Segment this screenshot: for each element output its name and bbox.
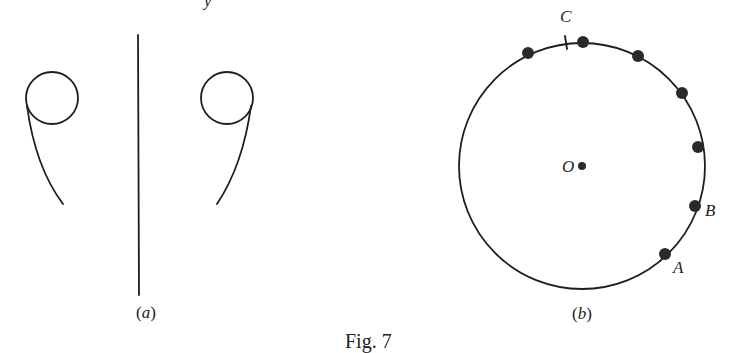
left-loop-circle bbox=[26, 72, 78, 124]
orbit-point bbox=[689, 200, 701, 212]
right-loop-circle bbox=[201, 72, 253, 124]
tick-mark-c bbox=[565, 36, 567, 49]
figure-caption: Fig. 7 bbox=[345, 330, 392, 353]
label-b: B bbox=[705, 201, 716, 220]
figure-7: y (a) O C B A (b) Fig. 7 bbox=[0, 0, 738, 353]
left-loop-tail bbox=[27, 106, 63, 204]
orbit-point bbox=[676, 87, 688, 99]
cropped-text-fragment: y bbox=[202, 0, 212, 10]
vertical-line bbox=[138, 35, 139, 295]
orbit-point bbox=[692, 141, 704, 153]
panel-a-label: (a) bbox=[136, 303, 156, 322]
right-loop-tail bbox=[217, 106, 251, 204]
panel-a: (a) bbox=[26, 35, 253, 322]
label-c: C bbox=[560, 7, 572, 26]
center-point-o bbox=[578, 162, 586, 170]
label-o: O bbox=[562, 157, 574, 176]
orbit-point bbox=[659, 248, 671, 260]
panel-b-label: (b) bbox=[572, 304, 592, 323]
orbit-point bbox=[632, 50, 644, 62]
orbit-point bbox=[577, 36, 589, 48]
orbit-point bbox=[522, 47, 534, 59]
label-a: A bbox=[672, 258, 684, 277]
orbit-points bbox=[522, 36, 704, 260]
figure-canvas: y (a) O C B A (b) Fig. 7 bbox=[0, 0, 738, 353]
panel-b: O C B A (b) bbox=[459, 7, 716, 323]
